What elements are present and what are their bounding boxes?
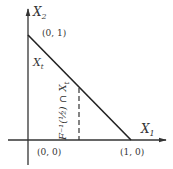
region-label: Xt [32, 56, 44, 71]
svg-text:F⁻¹(½) ∩ Xt: F⁻¹(½) ∩ Xt [57, 81, 71, 141]
x-axis-label: X1 [140, 122, 155, 138]
point-label-origin: (0, 0) [37, 147, 61, 157]
y-axis-label: X2 [32, 5, 47, 21]
diagram-canvas: X2 X1 (0, 1) (0, 0) (1, 0) Xt F⁻¹(½) ∩ X… [0, 0, 173, 169]
point-label-right: (1, 0) [120, 147, 144, 157]
dashed-line-label: F⁻¹(½) ∩ Xt [57, 81, 71, 141]
point-label-top: (0, 1) [42, 28, 66, 38]
